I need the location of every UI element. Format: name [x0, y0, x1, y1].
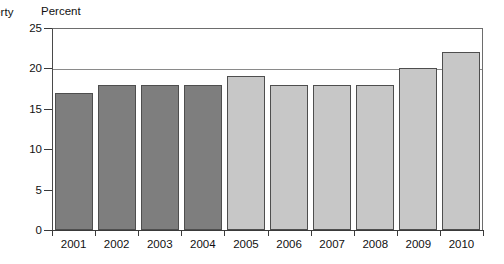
- x-tick-3: [181, 230, 182, 236]
- bar-2009: [399, 68, 437, 230]
- x-tick-0: [52, 230, 53, 236]
- y-tick-0: [44, 230, 52, 231]
- x-tick-label-2009: 2009: [406, 238, 432, 250]
- bar-2010: [442, 52, 480, 230]
- bar-2006: [270, 85, 308, 230]
- x-tick-9: [440, 230, 441, 236]
- x-tick-label-2005: 2005: [233, 238, 259, 250]
- x-tick-end: [483, 230, 484, 236]
- x-tick-5: [268, 230, 269, 236]
- x-tick-7: [354, 230, 355, 236]
- y-tick-label-0: 0: [2, 224, 42, 236]
- y-axis-unit-label: Percent: [41, 5, 81, 17]
- truncated-caption-fragment: erty: [0, 6, 14, 18]
- x-tick-1: [95, 230, 96, 236]
- bar-2005: [227, 76, 265, 230]
- x-tick-8: [397, 230, 398, 236]
- y-tick-label-20: 20: [2, 62, 42, 74]
- y-tick-label-25: 25: [2, 22, 42, 34]
- y-tick-label-15: 15: [2, 103, 42, 115]
- y-tick-5: [44, 190, 52, 191]
- y-tick-label-5: 5: [2, 184, 42, 196]
- x-tick-2: [138, 230, 139, 236]
- x-tick-6: [311, 230, 312, 236]
- x-tick-label-2007: 2007: [319, 238, 345, 250]
- y-tick-label-10: 10: [2, 143, 42, 155]
- x-tick-label-2003: 2003: [147, 238, 173, 250]
- x-tick-label-2002: 2002: [104, 238, 130, 250]
- x-tick-label-2008: 2008: [362, 238, 388, 250]
- bar-2001: [55, 93, 93, 230]
- y-tick-25: [44, 28, 52, 29]
- bar-2004: [184, 85, 222, 230]
- bar-2002: [98, 85, 136, 230]
- x-tick-label-2006: 2006: [276, 238, 302, 250]
- y-tick-15: [44, 109, 52, 110]
- x-tick-4: [224, 230, 225, 236]
- x-tick-label-2001: 2001: [61, 238, 87, 250]
- bar-chart: erty Percent 0510152025 2001200220032004…: [0, 0, 504, 264]
- bar-2007: [313, 85, 351, 230]
- bar-2008: [356, 85, 394, 230]
- x-tick-label-2010: 2010: [449, 238, 475, 250]
- y-tick-10: [44, 149, 52, 150]
- x-tick-label-2004: 2004: [190, 238, 216, 250]
- y-tick-20: [44, 68, 52, 69]
- bar-2003: [141, 85, 179, 230]
